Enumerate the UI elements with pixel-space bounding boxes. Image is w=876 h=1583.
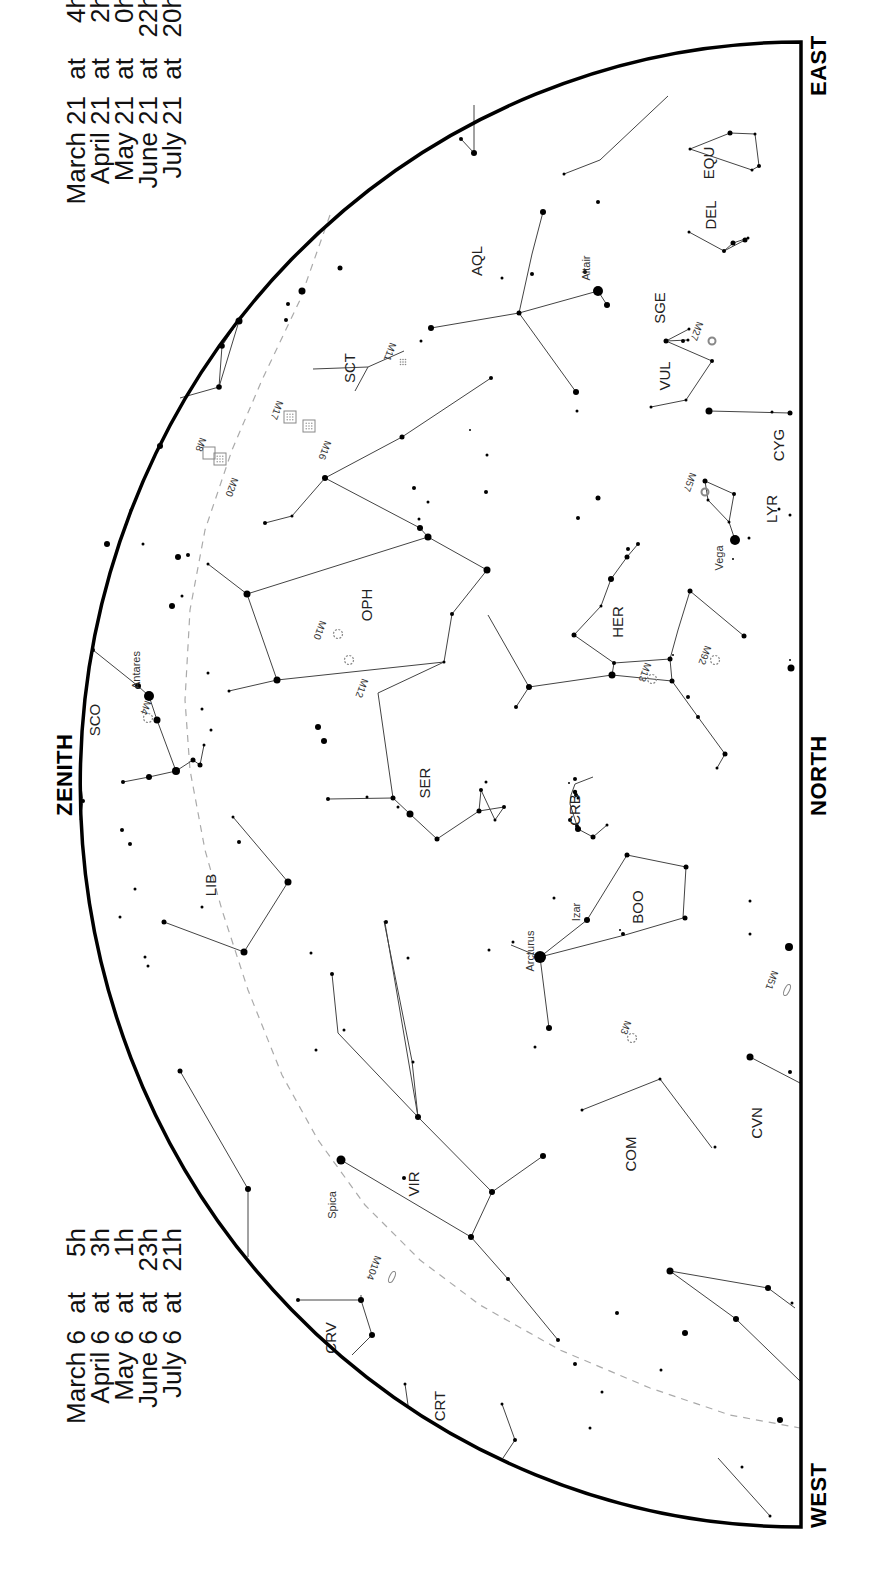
direction-zenith: ZENITH (52, 734, 78, 816)
dso-m4: M4 (138, 699, 153, 722)
direction-west: WEST (806, 1462, 832, 1528)
constellation-line (247, 537, 428, 594)
dso-label: M13 (636, 661, 653, 683)
planetary-nebula-icon (709, 338, 716, 345)
constellation-line (410, 814, 437, 839)
constellation-line (325, 437, 402, 478)
constellation-line (600, 96, 668, 160)
timetable-time: 20h (160, 0, 184, 58)
star (428, 325, 434, 331)
open-cluster-icon (400, 359, 402, 361)
star (615, 1311, 619, 1315)
star (730, 535, 740, 545)
dso-m10: M10 (311, 619, 342, 641)
constellation-label-vir: VIR (405, 1171, 422, 1196)
constellation-line (292, 478, 325, 516)
star-labels: AltairVegaAntaresIzarArcturusSpica (130, 255, 725, 1219)
star (589, 1427, 592, 1430)
star (412, 486, 416, 490)
star (728, 131, 733, 136)
constellation-line (670, 659, 672, 681)
constellation-line (575, 777, 593, 784)
star (404, 1383, 407, 1386)
star (203, 744, 206, 747)
planetary-nebula-icon (702, 489, 709, 496)
constellation-line (709, 411, 790, 413)
star (484, 567, 491, 574)
star (162, 920, 167, 925)
star (765, 1285, 771, 1291)
star (178, 1069, 183, 1074)
star (343, 1029, 346, 1032)
star (540, 1153, 546, 1159)
star (119, 916, 122, 919)
star (412, 1061, 415, 1064)
star (147, 965, 150, 968)
constellation-line (690, 591, 744, 636)
open-cluster-icon (400, 361, 402, 363)
dso-m3: M3 (618, 1019, 636, 1042)
constellation-line (540, 935, 625, 957)
star (687, 339, 690, 342)
star (650, 406, 653, 409)
star (573, 777, 577, 781)
constellation-line (660, 1079, 712, 1148)
star (321, 738, 327, 744)
star (688, 328, 691, 331)
constellation-line (208, 564, 247, 594)
star (573, 790, 577, 794)
star (477, 809, 482, 814)
constellation-line (689, 232, 724, 251)
star (501, 277, 504, 280)
star (612, 661, 616, 665)
star (556, 1338, 560, 1342)
dso-label: M27 (688, 320, 705, 342)
constellation-line (768, 1288, 795, 1308)
star (789, 659, 791, 661)
open-cluster-icon (405, 361, 407, 363)
star (418, 518, 421, 521)
constellation-line (402, 378, 491, 437)
star (417, 525, 423, 531)
constellation-line (651, 400, 686, 407)
star (514, 705, 518, 709)
star (296, 1298, 300, 1302)
constellation-label-her: HER (609, 606, 626, 638)
dso-label: M12 (353, 677, 370, 699)
star (591, 835, 596, 840)
star (572, 633, 577, 638)
star (596, 496, 601, 501)
constellation-line (452, 570, 487, 614)
star (707, 499, 710, 502)
star (672, 654, 674, 656)
dso-label: M4 (138, 699, 153, 716)
star (706, 408, 713, 415)
star (237, 840, 241, 844)
constellation-line (378, 693, 393, 798)
star (688, 231, 691, 234)
constellation-label-cyg: CYG (770, 429, 787, 462)
constellation-line (670, 1271, 768, 1288)
star (299, 288, 306, 295)
star (575, 826, 581, 832)
star (142, 543, 145, 546)
star (757, 164, 761, 168)
star (488, 949, 491, 952)
star (501, 1403, 504, 1406)
star (546, 1025, 552, 1031)
star (144, 956, 147, 959)
star (696, 715, 700, 719)
constellation-line (718, 1458, 770, 1516)
star (210, 729, 213, 732)
timetable-at: at (160, 1292, 184, 1330)
timetable-at: at (160, 58, 184, 96)
star (391, 796, 396, 801)
star (685, 399, 688, 402)
constellation-line (428, 537, 487, 570)
star-label-antares: Antares (130, 651, 142, 689)
star (576, 410, 579, 413)
star (540, 209, 546, 215)
star (263, 521, 267, 525)
timetable-date: July 21 (160, 96, 184, 214)
star (606, 824, 609, 827)
